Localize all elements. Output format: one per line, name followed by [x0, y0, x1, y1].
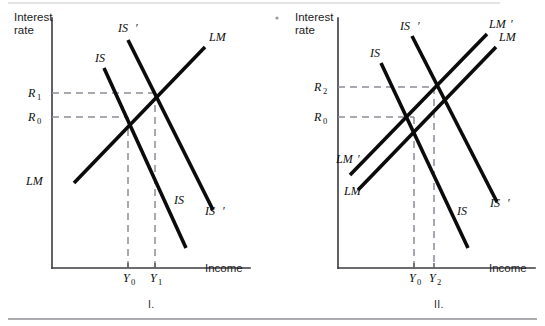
panel-1-label-LM-left: LM	[25, 174, 44, 188]
panel-1-ytick-R0-base: R	[27, 110, 36, 124]
panel-2-label-LM-prime-right-mark: ′	[510, 17, 513, 31]
panel-1-x-axis-title: Income	[205, 262, 243, 274]
panel-2-caption: II.	[434, 298, 444, 310]
islm-figure: Interest rate Income IS IS IS ′	[0, 0, 545, 326]
panel-2-x-axis-title: Income	[489, 262, 527, 274]
panel-1-axes	[52, 18, 250, 268]
panel-1-label-IS-prime-top-text: IS	[117, 21, 128, 35]
panel-2-xtick-Y2: Y 2	[429, 271, 441, 287]
panel-2-xtick-Y0-sub: 0	[417, 277, 421, 287]
panel-1-xtick-Y1-base: Y	[150, 271, 158, 285]
panel-1-xtick-Y1: Y 1	[150, 271, 162, 287]
panel-2-label-IS-bottom: IS	[456, 204, 467, 218]
panel-1-label-IS-prime-bottom-text: IS	[204, 204, 215, 218]
panel-1-caption: I.	[148, 298, 154, 310]
panel-2-label-IS-top: IS	[369, 46, 380, 60]
panel-2-label-LM-prime-left-text: LM	[335, 152, 354, 166]
panel-1-curve-IS	[104, 68, 186, 248]
panel-2-label-IS-prime-top-mark: ′	[417, 19, 420, 33]
panel-1-curves	[74, 40, 213, 248]
panel-2-ytick-R2-base: R	[313, 80, 322, 94]
panel-1-guides	[52, 93, 155, 268]
panel-1-y-axis-title-line2: rate	[14, 24, 34, 36]
panel-2-ytick-R2: R 2	[313, 80, 327, 96]
panel-1-label-LM-right: LM	[208, 30, 227, 44]
panel-1-label-IS-top: IS	[94, 51, 105, 65]
panel-2-ytick-R0: R 0	[313, 110, 327, 126]
panel-1-ytick-R1-sub: 1	[37, 92, 41, 102]
panel-2-axes	[338, 18, 535, 268]
panel-2-xtick-Y0: Y 0	[409, 271, 421, 287]
panel-1-xtick-Y0-base: Y	[123, 271, 131, 285]
panel-2-xtick-Y2-sub: 2	[437, 277, 441, 287]
panel-2: Interest rate Income IS IS IS	[275, 11, 535, 310]
panel-2-y-axis-title-line1: Interest	[295, 11, 334, 23]
panel-2-label-LM-prime-right-text: LM	[488, 17, 507, 31]
panel-2-guides	[338, 87, 434, 268]
panel-1-label-IS-prime-bottom: IS ′	[204, 204, 225, 218]
panel-1-ytick-R1-base: R	[27, 86, 36, 100]
panel-2-label-LM-prime-left-mark: ′	[357, 152, 360, 166]
panel-2-label-LM-prime-left: LM ′	[335, 152, 360, 166]
panel-2-ytick-R2-sub: 2	[323, 86, 327, 96]
panel-1-ytick-R1: R 1	[27, 86, 41, 102]
panel-2-bullet-dot	[275, 16, 278, 19]
panel-2-ytick-R0-sub: 0	[323, 116, 327, 126]
panel-1-label-IS-prime-top: IS ′	[117, 21, 138, 35]
panel-2-curves	[350, 34, 497, 248]
panel-2-ytick-R0-base: R	[313, 110, 322, 124]
panel-2-y-axis-title-line2: rate	[295, 24, 315, 36]
panel-2-label-IS-prime-top-text: IS	[399, 19, 410, 33]
panel-1-xtick-Y0-sub: 0	[131, 277, 135, 287]
panel-1: Interest rate Income IS IS IS ′	[14, 11, 250, 310]
panel-1-label-IS-prime-bottom-mark: ′	[222, 204, 225, 218]
panel-1-curve-IS-prime	[128, 40, 213, 210]
panel-1-ytick-R0: R 0	[27, 110, 41, 126]
panel-1-label-IS-prime-top-mark: ′	[135, 21, 138, 35]
panel-2-label-IS-prime-bottom: IS ′	[489, 196, 510, 210]
islm-svg-canvas: Interest rate Income IS IS IS ′	[0, 0, 545, 326]
panel-1-xtick-Y1-sub: 1	[158, 277, 162, 287]
panel-2-label-LM-left: LM	[343, 184, 362, 198]
panel-2-label-IS-prime-top: IS ′	[399, 19, 420, 33]
panel-2-label-LM-right: LM	[498, 30, 517, 44]
panel-1-label-IS-bottom: IS	[173, 193, 184, 207]
panel-1-xtick-Y0: Y 0	[123, 271, 135, 287]
panel-2-xtick-Y0-base: Y	[409, 271, 417, 285]
panel-2-xtick-Y2-base: Y	[429, 271, 437, 285]
panel-1-ytick-R0-sub: 0	[37, 116, 41, 126]
panel-2-label-LM-prime-right: LM ′	[488, 17, 513, 31]
panel-1-y-axis-title-line1: Interest	[14, 11, 53, 23]
panel-2-label-IS-prime-bottom-mark: ′	[507, 196, 510, 210]
panel-1-curve-LM	[74, 47, 205, 183]
panel-2-label-IS-prime-bottom-text: IS	[489, 196, 500, 210]
